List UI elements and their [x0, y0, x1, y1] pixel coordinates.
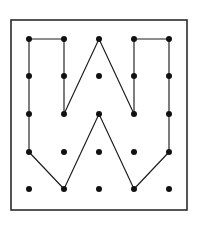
peg-dot	[166, 186, 172, 192]
peg-dot	[61, 186, 67, 192]
geoboard-figure	[0, 0, 199, 225]
peg-dot	[96, 111, 102, 117]
peg-dot	[96, 36, 102, 42]
peg-dot	[26, 149, 32, 155]
peg-dot	[96, 186, 102, 192]
peg-dot	[96, 149, 102, 155]
peg-dot	[61, 149, 67, 155]
geoboard-canvas	[0, 0, 199, 225]
peg-dot	[61, 36, 67, 42]
peg-dot	[131, 186, 137, 192]
peg-dot	[166, 36, 172, 42]
peg-dot	[131, 149, 137, 155]
peg-dot	[166, 111, 172, 117]
peg-dot	[166, 149, 172, 155]
peg-dot	[131, 111, 137, 117]
peg-dot	[131, 36, 137, 42]
peg-dot	[166, 73, 172, 79]
peg-dot	[26, 36, 32, 42]
peg-dot	[26, 186, 32, 192]
peg-dot	[131, 73, 137, 79]
peg-dot	[26, 73, 32, 79]
peg-dot	[96, 73, 102, 79]
peg-dot	[26, 111, 32, 117]
peg-dot	[61, 111, 67, 117]
peg-dot	[61, 73, 67, 79]
